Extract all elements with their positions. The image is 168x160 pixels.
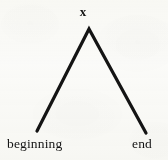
left-endpoint-label-beginning: beginning: [7, 137, 62, 151]
diagram-figure: x beginning end: [0, 0, 168, 160]
apex-label-x: x: [0, 5, 167, 18]
chevron-polyline: [37, 29, 146, 133]
right-endpoint-label-end: end: [132, 137, 152, 151]
